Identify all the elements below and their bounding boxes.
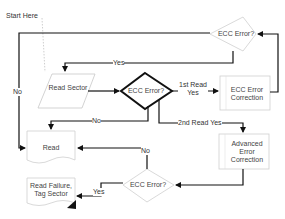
read-failure-label: Read Failure, Tag Sector	[27, 182, 75, 198]
edge-no-left-label: No	[13, 88, 22, 96]
start-connector	[42, 18, 45, 72]
ecc-error-correction-label: ECC Error Correction	[226, 86, 268, 102]
edge-yes-top	[65, 51, 233, 71]
edge-advanced-to-ecc	[176, 169, 243, 185]
read-label: Read	[27, 144, 75, 152]
edge-no-bottom	[78, 148, 147, 169]
edge-no-main-label: No	[92, 117, 101, 125]
ecc-error-bottom-label: ECC Error?	[128, 181, 168, 189]
ecc-error-main-label: ECC Error?	[126, 87, 166, 95]
advanced-error-correction-label: Advanced Error Correction	[226, 140, 268, 164]
edge-yes-bottom-label: Yes	[93, 188, 104, 196]
edge-first-read-yes-label: 1st Read Yes	[178, 81, 208, 97]
start-here-label: Start Here	[6, 12, 38, 20]
edge-second-read-yes-label: 2nd Read Yes	[178, 119, 222, 127]
edge-yes-top-label: Yes	[113, 59, 124, 67]
edge-no-bottom-label: No	[141, 147, 150, 155]
read-sector-label: Read Sector	[48, 84, 88, 92]
ecc-error-top-label: ECC Error?	[215, 30, 257, 38]
